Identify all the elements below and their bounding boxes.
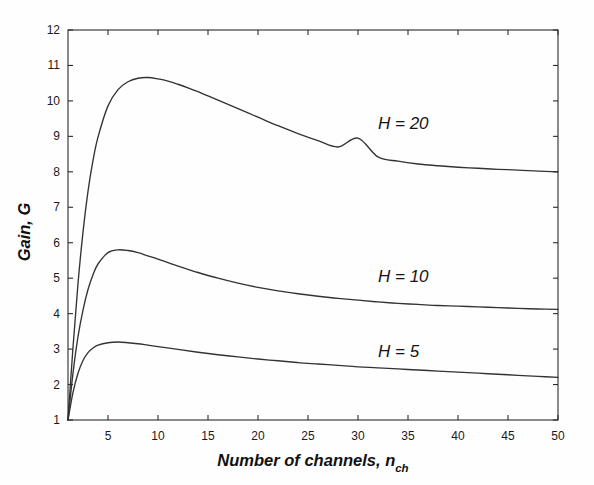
data-curves [68, 77, 558, 420]
x-axis-title: Number of channels, nch [217, 451, 408, 474]
y-tick-label: 3 [53, 342, 60, 356]
y-tick-label: 12 [47, 23, 61, 37]
y-axis-title: Gain, G [15, 203, 33, 262]
x-tick-label: 5 [105, 429, 112, 443]
x-tick-label: 40 [451, 429, 465, 443]
x-tick-label: 25 [301, 429, 315, 443]
annotation-h-20: H = 20 [378, 114, 429, 133]
y-tick-label: 6 [53, 236, 60, 250]
y-axis-ticks: 123456789101112 [47, 23, 558, 427]
annotation-h-5: H = 5 [378, 342, 420, 361]
x-tick-label: 30 [351, 429, 365, 443]
y-tick-label: 1 [53, 413, 60, 427]
y-tick-label: 9 [53, 129, 60, 143]
axes-frame [68, 30, 558, 420]
x-tick-label: 50 [551, 429, 565, 443]
curve-h-5 [68, 342, 558, 420]
x-tick-label: 45 [501, 429, 515, 443]
x-tick-label: 15 [201, 429, 215, 443]
plot-frame [68, 30, 558, 420]
x-tick-label: 35 [401, 429, 415, 443]
curve-h-10 [68, 250, 558, 420]
y-tick-label: 5 [53, 271, 60, 285]
y-tick-label: 10 [47, 94, 61, 108]
figure-container: 123456789101112 5101520253035404550 H = … [0, 0, 594, 485]
annotation-h-10: H = 10 [378, 267, 429, 286]
y-tick-label: 2 [53, 378, 60, 392]
y-tick-label: 7 [53, 200, 60, 214]
y-tick-label: 4 [53, 307, 60, 321]
gain-vs-channels-chart: 123456789101112 5101520253035404550 H = … [0, 0, 594, 485]
curve-h-20 [68, 77, 558, 420]
curve-annotations: H = 20H = 10H = 5 [378, 114, 429, 361]
y-tick-label: 11 [48, 58, 61, 72]
x-tick-label: 10 [151, 429, 165, 443]
x-axis-ticks: 5101520253035404550 [105, 30, 565, 443]
y-tick-label: 8 [53, 165, 60, 179]
x-tick-label: 20 [251, 429, 265, 443]
